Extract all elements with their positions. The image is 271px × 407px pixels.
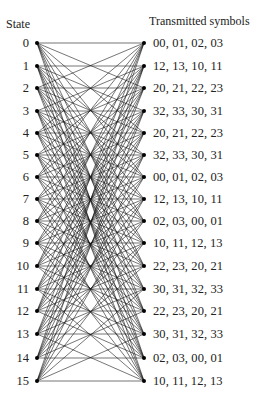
- next-state-node: [142, 64, 146, 68]
- transmitted-symbols-label: 02, 03, 00, 01: [153, 351, 223, 365]
- transmitted-symbols-label: 22, 23, 20, 21: [153, 259, 223, 273]
- transmitted-symbols-label: 22, 23, 20, 21: [153, 304, 223, 318]
- trellis-diagram: [0, 0, 271, 407]
- current-state-node: [35, 197, 39, 201]
- state-label: 11: [7, 282, 29, 296]
- next-state-node: [142, 86, 146, 90]
- state-label: 10: [7, 259, 29, 273]
- next-state-node: [142, 197, 146, 201]
- state-label: 12: [7, 304, 29, 318]
- state-label: 7: [7, 192, 29, 206]
- transmitted-symbols-label: 30, 31, 32, 33: [153, 282, 223, 296]
- current-state-node: [35, 219, 39, 223]
- next-state-node: [142, 153, 146, 157]
- symbols-column-header: Transmitted symbols: [149, 14, 250, 29]
- next-state-node: [142, 175, 146, 179]
- state-label: 8: [7, 214, 29, 228]
- current-state-node: [35, 264, 39, 268]
- current-state-node: [35, 309, 39, 313]
- transmitted-symbols-label: 32, 33, 30, 31: [153, 104, 223, 118]
- state-label: 9: [7, 236, 29, 250]
- transmitted-symbols-label: 00, 01, 02, 03: [153, 36, 223, 50]
- transmitted-symbols-label: 02, 03, 00, 01: [153, 214, 223, 228]
- current-state-node: [35, 86, 39, 90]
- state-label: 1: [7, 59, 29, 73]
- current-state-node: [35, 332, 39, 336]
- next-state-node: [142, 309, 146, 313]
- next-state-node: [142, 332, 146, 336]
- state-label: 15: [7, 374, 29, 388]
- transmitted-symbols-label: 20, 21, 22, 23: [153, 81, 223, 95]
- next-state-node: [142, 356, 146, 360]
- state-label: 3: [7, 104, 29, 118]
- transmitted-symbols-label: 12, 13, 10, 11: [153, 59, 223, 73]
- state-label: 4: [7, 126, 29, 140]
- next-state-node: [142, 287, 146, 291]
- next-state-node: [142, 131, 146, 135]
- current-state-node: [35, 64, 39, 68]
- transmitted-symbols-label: 30, 31, 32, 33: [153, 327, 223, 341]
- transmitted-symbols-label: 32, 33, 30, 31: [153, 148, 223, 162]
- current-state-node: [35, 131, 39, 135]
- current-state-node: [35, 241, 39, 245]
- state-label: 2: [7, 81, 29, 95]
- transmitted-symbols-label: 10, 11, 12, 13: [153, 374, 223, 388]
- current-state-node: [35, 41, 39, 45]
- transmitted-symbols-label: 00, 01, 02, 03: [153, 170, 223, 184]
- next-state-node: [142, 219, 146, 223]
- current-state-node: [35, 153, 39, 157]
- state-label: 0: [7, 36, 29, 50]
- state-column-header: State: [6, 17, 30, 32]
- current-state-node: [35, 356, 39, 360]
- current-state-node: [35, 379, 39, 383]
- next-state-node: [142, 41, 146, 45]
- state-label: 13: [7, 327, 29, 341]
- current-state-node: [35, 175, 39, 179]
- next-state-node: [142, 379, 146, 383]
- next-state-node: [142, 241, 146, 245]
- transmitted-symbols-label: 10, 11, 12, 13: [153, 236, 223, 250]
- transmitted-symbols-label: 12, 13, 10, 11: [153, 192, 223, 206]
- current-state-node: [35, 109, 39, 113]
- transmitted-symbols-label: 20, 21, 22, 23: [153, 126, 223, 140]
- next-state-node: [142, 264, 146, 268]
- state-label: 14: [7, 351, 29, 365]
- state-label: 6: [7, 170, 29, 184]
- next-state-node: [142, 109, 146, 113]
- state-label: 5: [7, 148, 29, 162]
- current-state-node: [35, 287, 39, 291]
